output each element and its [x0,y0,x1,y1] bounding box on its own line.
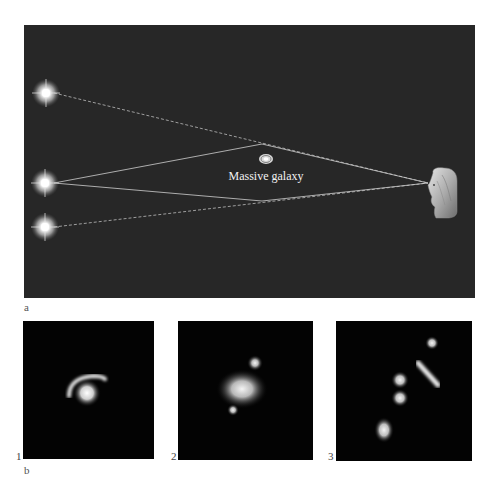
lensed-image-lower [227,404,239,416]
star-icon-bottom [31,213,59,241]
lensed-arc [418,363,438,385]
panel-a-label: a [24,302,29,313]
lens-image-1 [23,321,154,459]
lensed-image-bottom [374,417,394,443]
lens-image-2-svg [178,321,313,460]
subpanel-number-1: 1 [16,451,22,462]
galaxy-icon [259,154,273,164]
lensed-image-middle-lower [391,389,409,407]
lensing-diagram-svg: Massive galaxy [24,25,475,298]
star-icon-middle [31,169,59,197]
lens-image-3-svg [336,321,472,461]
galaxy-label: Massive galaxy [229,169,304,183]
subpanel-number-3: 3 [328,451,334,462]
lensing-diagram-panel: Massive galaxy [24,25,475,298]
lens-image-1-svg [23,321,154,459]
dashed-ray-bottom [54,183,428,227]
subpanel-number-2: 2 [171,451,177,462]
light-ray-lower [54,183,428,201]
lensed-image-top [425,336,439,350]
lensing-galaxy-core [216,369,268,409]
lens-image-3 [336,321,472,461]
lensed-image-upper [247,355,263,371]
star-icon-top [32,79,60,107]
panel-b-label: b [24,465,30,476]
observer-head-icon [428,168,457,218]
lensing-galaxy-core [73,379,101,407]
lensed-image-middle-upper [391,371,409,389]
lens-image-2 [178,321,313,460]
